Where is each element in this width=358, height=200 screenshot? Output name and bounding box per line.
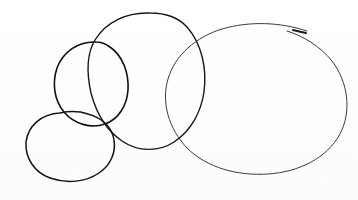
shape-group-bottom-left-small-ellipse bbox=[26, 112, 115, 182]
sketch-drawing bbox=[0, 0, 358, 200]
shape-group-middle-large-circle bbox=[88, 13, 205, 149]
sketch-canvas bbox=[0, 0, 358, 200]
middle-large-circle-path bbox=[88, 13, 205, 149]
shape-group-middle-left-circle bbox=[54, 42, 128, 126]
right-large-ellipse-path bbox=[165, 24, 346, 175]
bottom-left-small-ellipse-path bbox=[26, 112, 115, 182]
middle-left-circle-path bbox=[54, 42, 128, 126]
shape-group-right-large-ellipse bbox=[165, 24, 346, 175]
